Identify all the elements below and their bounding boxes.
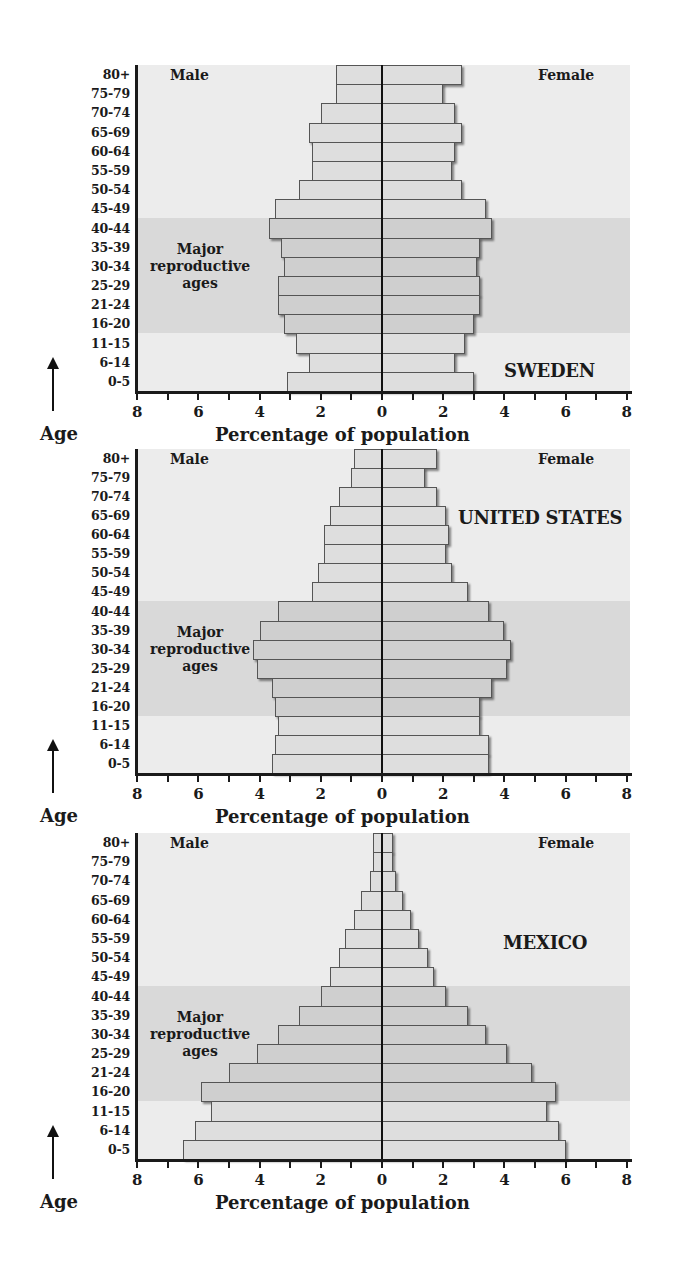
age-group-label: 0-5 xyxy=(60,1140,130,1159)
female-bar xyxy=(382,525,449,545)
x-tick xyxy=(534,1161,536,1168)
female-bar xyxy=(382,1082,556,1102)
age-group-label: 75-79 xyxy=(60,468,130,487)
age-arrow-shaft xyxy=(52,745,54,793)
female-bar xyxy=(382,142,455,162)
female-bar xyxy=(382,986,446,1006)
x-axis-title: Percentage of population xyxy=(215,424,470,445)
age-group-label: 35-39 xyxy=(60,1006,130,1025)
female-bar xyxy=(382,754,489,774)
age-group-label: 75-79 xyxy=(60,84,130,103)
female-bar xyxy=(382,697,480,717)
age-arrow-shaft xyxy=(52,363,54,411)
x-tick xyxy=(381,1161,383,1168)
age-group-label: 0-5 xyxy=(60,754,130,773)
female-bar xyxy=(382,218,492,238)
zero-line xyxy=(381,833,383,1159)
female-bar xyxy=(382,910,411,930)
x-tick xyxy=(503,775,505,782)
male-label: Male xyxy=(170,835,209,851)
repro-label-line: Major xyxy=(140,624,260,641)
x-tick xyxy=(289,393,291,400)
age-group-label: 70-74 xyxy=(60,871,130,890)
age-up-arrow-icon xyxy=(47,739,59,751)
male-bar xyxy=(321,986,382,1006)
age-group-label: 65-69 xyxy=(60,891,130,910)
female-bar xyxy=(382,1063,532,1083)
female-bar xyxy=(382,891,403,911)
female-bar xyxy=(382,449,437,469)
female-bar xyxy=(382,582,468,602)
male-bar xyxy=(339,487,382,507)
age-group-label: 21-24 xyxy=(60,678,130,697)
age-group-label: 25-29 xyxy=(60,1044,130,1063)
x-tick xyxy=(534,393,536,400)
male-bar xyxy=(278,295,382,315)
female-bar xyxy=(382,84,443,104)
repro-label-line: reproductive xyxy=(140,258,260,275)
age-arrow-shaft xyxy=(52,1131,54,1179)
age-group-label: 11-15 xyxy=(60,716,130,735)
male-bar xyxy=(275,199,382,219)
male-bar xyxy=(257,1044,382,1064)
x-tick-label: 4 xyxy=(494,1171,514,1189)
age-group-label: 21-24 xyxy=(60,295,130,314)
male-bar xyxy=(351,468,382,488)
age-group-label: 70-74 xyxy=(60,103,130,122)
x-tick xyxy=(381,775,383,782)
x-tick xyxy=(350,1161,352,1168)
x-axis-title: Percentage of population xyxy=(215,806,470,827)
x-tick xyxy=(167,775,169,782)
x-tick xyxy=(350,775,352,782)
age-group-label: 60-64 xyxy=(60,910,130,929)
x-tick xyxy=(289,1161,291,1168)
x-tick-label: 8 xyxy=(127,1171,147,1189)
x-tick-label: 6 xyxy=(556,1171,576,1189)
x-tick xyxy=(565,775,567,782)
age-group-label: 80+ xyxy=(60,449,130,468)
age-group-label: 11-15 xyxy=(60,334,130,353)
age-group-label: 30-34 xyxy=(60,1025,130,1044)
female-bar xyxy=(382,640,511,660)
x-tick-label: 0 xyxy=(372,785,392,803)
male-bar xyxy=(361,891,382,911)
age-group-label: 75-79 xyxy=(60,852,130,871)
major-reproductive-ages-label: Majorreproductiveages xyxy=(140,1009,260,1060)
male-bar xyxy=(278,716,382,736)
x-tick xyxy=(289,775,291,782)
age-group-label: 35-39 xyxy=(60,621,130,640)
female-bar xyxy=(382,506,446,526)
female-label: Female xyxy=(538,67,594,83)
x-tick-label: 6 xyxy=(188,1171,208,1189)
x-tick-label: 8 xyxy=(617,1171,637,1189)
x-tick xyxy=(595,393,597,400)
female-bar xyxy=(382,123,462,143)
x-tick xyxy=(228,1161,230,1168)
female-bar xyxy=(382,1121,559,1141)
male-bar xyxy=(299,1006,382,1026)
female-bar xyxy=(382,1044,507,1064)
x-tick-label: 8 xyxy=(617,785,637,803)
female-bar xyxy=(382,1025,486,1045)
age-group-label: 6-14 xyxy=(60,1121,130,1140)
age-group-label: 11-15 xyxy=(60,1102,130,1121)
zero-line xyxy=(381,65,383,391)
repro-label-line: ages xyxy=(140,1043,260,1060)
male-bar xyxy=(211,1101,382,1121)
male-bar xyxy=(201,1082,382,1102)
x-tick-label: 2 xyxy=(433,785,453,803)
age-axis-title: Age xyxy=(40,423,78,444)
x-tick xyxy=(350,393,352,400)
age-group-label: 45-49 xyxy=(60,967,130,986)
zero-line xyxy=(381,449,383,773)
x-tick xyxy=(412,1161,414,1168)
x-tick xyxy=(136,393,138,400)
x-tick xyxy=(197,393,199,400)
female-bar xyxy=(382,563,452,583)
x-tick xyxy=(442,775,444,782)
female-bar xyxy=(382,468,425,488)
male-bar xyxy=(309,123,382,143)
x-tick-label: 4 xyxy=(250,1171,270,1189)
female-bar xyxy=(382,967,434,987)
age-group-label: 50-54 xyxy=(60,563,130,582)
